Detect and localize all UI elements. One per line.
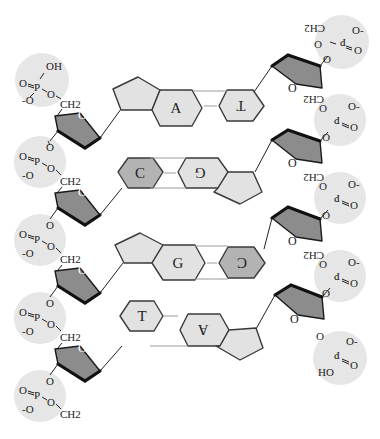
base-pairs: A T C G G C — [113, 77, 265, 360]
svg-text:O: O — [288, 234, 297, 248]
svg-text:P: P — [34, 233, 40, 245]
svg-text:-O: -O — [22, 169, 34, 181]
base-pair-a-t: A T — [113, 77, 264, 126]
base-pair-g-c: G C — [115, 233, 265, 280]
svg-text:P: P — [34, 311, 40, 323]
svg-text:O: O — [290, 312, 299, 326]
svg-text:O: O — [46, 297, 54, 309]
left-sugar-2: O — [50, 185, 122, 225]
svg-text:O-: O- — [348, 178, 360, 190]
svg-text:O: O — [19, 77, 27, 89]
svg-text:OH: OH — [46, 60, 62, 72]
svg-text:P: P — [34, 81, 40, 93]
svg-text:P: P — [334, 115, 340, 127]
svg-text:O: O — [47, 396, 55, 408]
svg-text:O: O — [314, 39, 322, 51]
svg-text:O: O — [319, 181, 327, 193]
svg-text:A: A — [197, 322, 208, 338]
dna-diagram: OH O P -O O CH2 O O P -O O CH2 — [0, 0, 380, 439]
svg-text:O: O — [47, 162, 55, 174]
left-sugar-1: O — [50, 108, 121, 148]
svg-text:P: P — [334, 350, 340, 362]
svg-text:O: O — [47, 318, 55, 330]
svg-text:O: O — [316, 331, 324, 343]
svg-text:O: O — [319, 259, 327, 271]
svg-text:O-: O- — [348, 256, 360, 268]
svg-text:CH2: CH2 — [304, 23, 325, 35]
svg-text:C: C — [135, 165, 145, 181]
svg-text:O: O — [350, 278, 358, 290]
base-pair-c-g: C G — [118, 158, 262, 204]
svg-text:O: O — [288, 81, 297, 95]
svg-text:O: O — [288, 156, 297, 170]
svg-text:O: O — [19, 228, 27, 240]
svg-text:P: P — [34, 389, 40, 401]
svg-text:O: O — [350, 200, 358, 212]
svg-text:O: O — [19, 150, 27, 162]
svg-text:O: O — [78, 263, 87, 277]
svg-text:-O: -O — [22, 94, 34, 106]
svg-text:O: O — [350, 360, 358, 372]
svg-text:O-: O- — [352, 24, 364, 36]
svg-text:G: G — [173, 255, 184, 271]
right-sugar-4: O — [256, 285, 330, 329]
svg-text:O: O — [47, 240, 55, 252]
base-pair-t-a: T A — [120, 301, 263, 360]
svg-text:O: O — [319, 103, 327, 115]
svg-text:P: P — [340, 37, 346, 49]
svg-text:-O: -O — [22, 325, 34, 337]
svg-text:O: O — [19, 306, 27, 318]
svg-text:O: O — [78, 185, 87, 199]
svg-text:O: O — [78, 341, 87, 355]
svg-text:P: P — [334, 193, 340, 205]
svg-text:HO: HO — [318, 366, 334, 378]
svg-text:T: T — [137, 308, 146, 324]
right-sugar-3: O — [264, 207, 328, 249]
svg-text:O: O — [46, 141, 54, 153]
svg-text:P: P — [334, 271, 340, 283]
svg-text:C: C — [237, 255, 247, 271]
svg-text:O: O — [46, 375, 54, 387]
right-strand: CH2 O P O- O O CH2 O P O- O O CH2 O P O-… — [254, 15, 369, 385]
left-strand: OH O P -O O CH2 O O P -O O CH2 — [14, 53, 123, 422]
svg-text:O: O — [19, 384, 27, 396]
svg-text:O: O — [78, 108, 87, 122]
right-sugar-1: O — [254, 55, 328, 95]
svg-text:O: O — [350, 122, 358, 134]
purine-ring-a — [113, 77, 160, 110]
svg-text:P: P — [34, 155, 40, 167]
svg-text:-O: -O — [22, 247, 34, 259]
svg-text:O: O — [47, 88, 55, 100]
svg-text:O: O — [46, 219, 54, 231]
svg-text:O: O — [354, 45, 362, 57]
left-sugar-4: O — [50, 341, 122, 381]
svg-text:G: G — [194, 165, 205, 181]
svg-text:CH2: CH2 — [60, 408, 81, 420]
svg-text:T: T — [236, 98, 245, 114]
svg-text:O-: O- — [348, 100, 360, 112]
svg-text:-O: -O — [22, 403, 34, 415]
left-sugar-3: O — [50, 263, 123, 303]
svg-text:O-: O- — [346, 335, 358, 347]
right-sugar-2: O — [255, 130, 328, 172]
svg-text:A: A — [171, 100, 182, 116]
